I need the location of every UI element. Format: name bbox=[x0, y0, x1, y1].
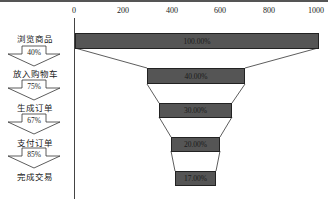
conversion-rate: 85% bbox=[2, 150, 66, 159]
conversion-rate: 40% bbox=[2, 48, 66, 57]
funnel-bar: 17.00% bbox=[175, 171, 216, 186]
funnel-bar: 20.00% bbox=[171, 137, 220, 152]
stage-label: 浏览商品 bbox=[0, 32, 70, 44]
funnel-bar: 40.00% bbox=[147, 68, 245, 84]
stage-label: 完成交易 bbox=[0, 170, 70, 182]
conversion-rate: 67% bbox=[2, 116, 66, 125]
funnel-bar: 30.00% bbox=[159, 103, 232, 118]
conversion-rate: 75% bbox=[2, 82, 66, 91]
stage-label: 生成订单 bbox=[0, 101, 70, 113]
funnel-bar: 100.00% bbox=[75, 33, 319, 49]
stage-label: 支付订单 bbox=[0, 136, 70, 148]
stage-label: 放入购物车 bbox=[0, 67, 70, 79]
